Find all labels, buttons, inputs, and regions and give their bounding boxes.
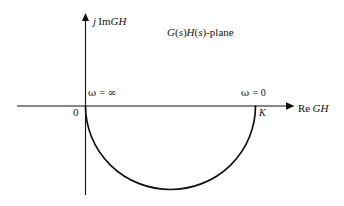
imaginary-axis-arrowhead	[82, 13, 89, 21]
imaginary-axis-label-gh: GH	[111, 15, 127, 27]
imaginary-axis-label-im: Im	[98, 15, 110, 27]
omega-infinity-annotation: ω = ∞	[88, 88, 116, 98]
plane-label-g: G	[167, 26, 175, 38]
real-axis-label: Re GH	[298, 103, 328, 114]
infinity-symbol: ∞	[108, 87, 116, 98]
plane-label: G(s)H(s)-plane	[167, 27, 234, 38]
origin-label: 0	[73, 107, 79, 118]
real-axis-label-gh: GH	[312, 102, 328, 114]
omega-symbol-zero-case: ω	[241, 87, 249, 98]
plane-label-suffix: -plane	[206, 26, 233, 38]
imaginary-axis-label: j ImGH	[93, 16, 126, 27]
plane-label-h: H	[187, 26, 195, 38]
real-axis-label-re: Re	[298, 102, 310, 114]
omega-symbol-infinity-case: ω	[88, 87, 96, 98]
zero-value: 0	[261, 87, 266, 98]
nyquist-semicircle-curve	[86, 106, 256, 190]
nyquist-plot-figure: j ImGH Re GH G(s)H(s)-plane ω = ∞ ω = 0 …	[0, 0, 344, 206]
gain-label-k: K	[259, 108, 266, 118]
omega-zero-annotation: ω = 0	[241, 88, 266, 98]
real-axis-arrowhead	[286, 102, 295, 109]
